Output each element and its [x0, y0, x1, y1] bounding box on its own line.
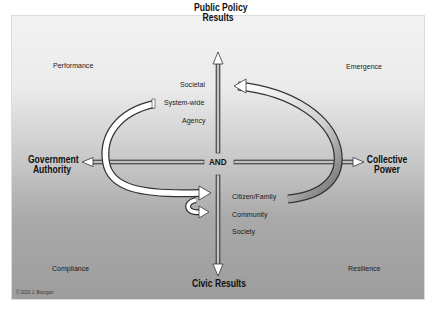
- axis-label-left: Government Authority: [28, 155, 76, 175]
- level-agency: Agency: [182, 116, 205, 125]
- curved-arrow-right: [234, 79, 338, 199]
- arrow-down-civic: [213, 175, 223, 276]
- arrow-up-public-policy: [213, 52, 223, 153]
- axis-label-bottom: Civic Results: [191, 279, 248, 289]
- level-system-wide: System-wide: [164, 98, 204, 107]
- level-society: Society: [232, 227, 255, 236]
- level-community: Community: [232, 210, 268, 219]
- quadrant-top-right: Emergence: [346, 62, 382, 71]
- arrow-left-government: [82, 158, 204, 167]
- center-and-label: AND: [209, 157, 227, 167]
- axis-label-top: Public Policy Results: [194, 3, 242, 23]
- axis-bottom-label: Civic Results: [191, 279, 248, 289]
- curved-arrow-left: [105, 99, 211, 200]
- level-societal: Societal: [180, 80, 205, 89]
- axis-label-right: Collective Power: [366, 155, 409, 175]
- axis-top-line2: Results: [194, 13, 242, 23]
- quadrant-top-left: Performance: [53, 61, 93, 70]
- small-curl-arrow: [188, 200, 209, 218]
- copyright-notice: © 2010 J. Bourgon: [16, 289, 54, 295]
- quadrant-bottom-left: Compliance: [52, 264, 89, 273]
- level-citizen-family: Citizen/Family: [232, 192, 276, 201]
- quadrant-bottom-right: Resilience: [348, 264, 380, 273]
- axis-left-line2: Authority: [28, 165, 76, 175]
- axis-right-line2: Power: [366, 165, 409, 175]
- arrow-right-collective: [234, 158, 364, 167]
